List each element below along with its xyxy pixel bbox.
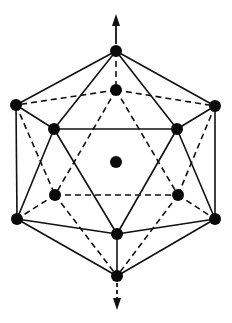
vertex-bottom [111, 270, 123, 282]
vertex-front-bottom [111, 228, 123, 240]
vertex-back-top [110, 84, 122, 96]
vertex-front-left [48, 123, 60, 135]
icosahedron-diagram: Icosahedron with 5-fold axis and center … [0, 0, 232, 323]
vertex-back-left [49, 189, 61, 201]
vertex-back-right [172, 189, 184, 201]
vertex-left-up [10, 99, 22, 111]
vertex-top [110, 45, 122, 57]
vertex-front-right [171, 123, 183, 135]
vertex-right-low [209, 213, 221, 225]
vertex-center [110, 156, 122, 168]
visible-edge-left_up-left_low [16, 105, 17, 219]
vertex-left-low [11, 213, 23, 225]
vertex-right-up [209, 100, 221, 112]
